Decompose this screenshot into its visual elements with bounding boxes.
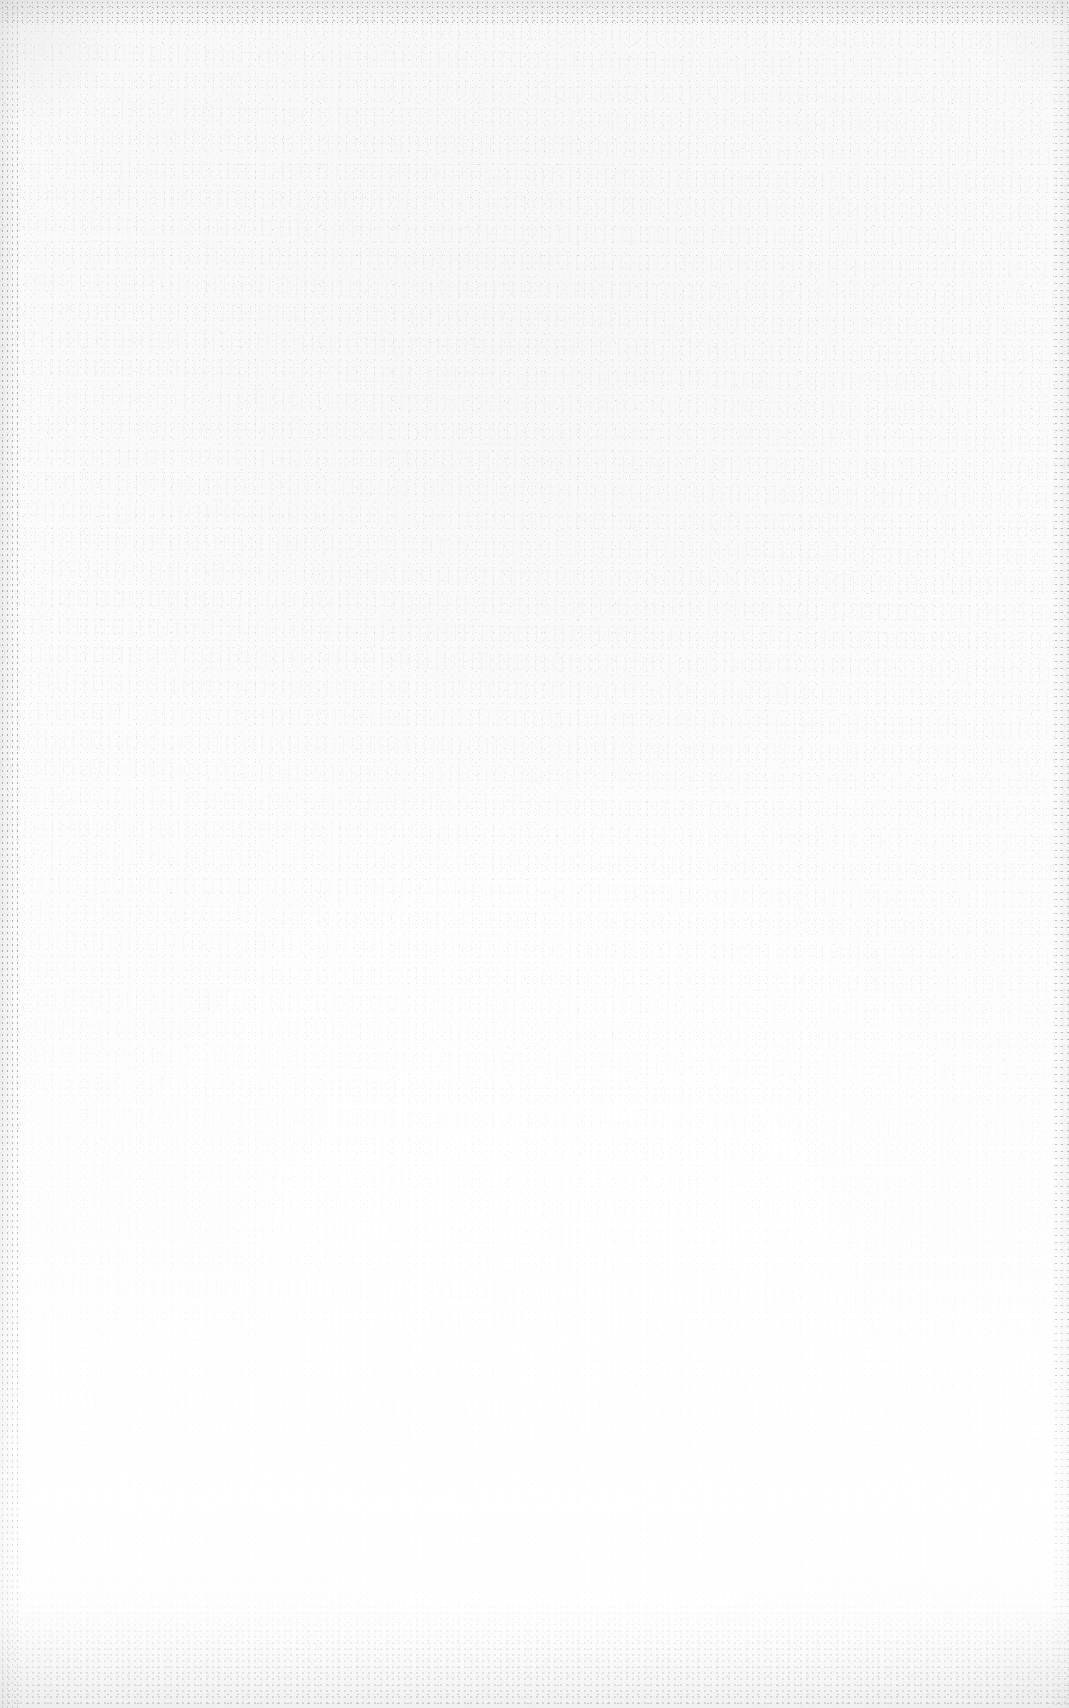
scanned-page — [0, 0, 1069, 1708]
page-content-area — [0, 0, 1069, 1708]
